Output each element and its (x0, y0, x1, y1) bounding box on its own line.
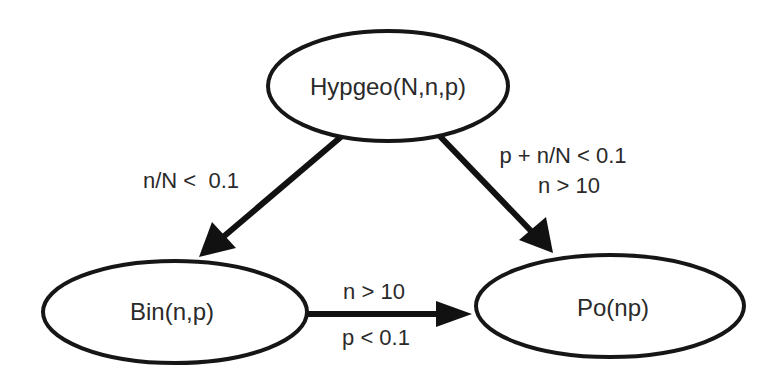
node-label-bin: Bin(n,p) (130, 298, 214, 325)
node-hypgeo: Hypgeo(N,n,p) (268, 31, 508, 141)
node-bin: Bin(n,p) (43, 261, 307, 363)
edge-bin-to-po (306, 301, 472, 327)
edge-label-bin-po-line2: p < 0.1 (342, 325, 410, 350)
edge-hypgeo-to-bin (199, 136, 342, 257)
edge-label-hypgeo-po-line2: n > 10 (538, 173, 600, 198)
node-label-po: Po(np) (577, 294, 649, 321)
edge-label-hypgeo-bin: n/N < 0.1 (143, 168, 239, 193)
arrow-head-icon (436, 301, 472, 327)
arrow-shaft (222, 136, 342, 238)
distribution-approximation-diagram: Hypgeo(N,n,p) Bin(n,p) Po(np) n/N < 0.1 … (0, 0, 778, 378)
node-po: Po(np) (476, 255, 744, 357)
edge-label-hypgeo-po-line1: p + n/N < 0.1 (499, 143, 626, 168)
edge-label-bin-po-line1: n > 10 (343, 279, 405, 304)
node-label-hypgeo: Hypgeo(N,n,p) (310, 73, 466, 100)
